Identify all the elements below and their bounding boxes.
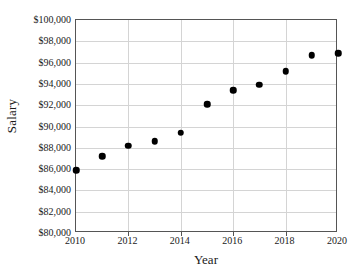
y-tick-label: $94,000 <box>3 77 71 88</box>
y-tick-label: $84,000 <box>3 184 71 195</box>
x-tick-label: 2020 <box>327 235 347 246</box>
gridline-vertical <box>181 20 182 231</box>
gridline-horizontal <box>76 169 336 170</box>
data-point <box>99 153 106 160</box>
plot-area <box>75 19 337 232</box>
x-tick-label: 2016 <box>222 235 242 246</box>
data-point <box>125 142 132 149</box>
data-point <box>335 50 342 57</box>
y-tick-label: $86,000 <box>3 163 71 174</box>
y-tick-label: $80,000 <box>3 227 71 238</box>
y-tick-label: $100,000 <box>3 14 71 25</box>
gridline-horizontal <box>76 148 336 149</box>
chart-page: Salary $80,000$82,000$84,000$86,000$88,0… <box>0 0 362 278</box>
y-tick-label: $82,000 <box>3 205 71 216</box>
x-tick-label: 2010 <box>65 235 85 246</box>
data-point <box>282 68 289 75</box>
x-tick-label: 2012 <box>117 235 137 246</box>
gridline-horizontal <box>76 190 336 191</box>
gridline-horizontal <box>76 212 336 213</box>
gridline-vertical <box>286 20 287 231</box>
y-tick-label: $92,000 <box>3 99 71 110</box>
x-tick-label: 2018 <box>275 235 295 246</box>
gridline-horizontal <box>76 63 336 64</box>
y-tick-label: $90,000 <box>3 120 71 131</box>
y-axis-tick-labels: $80,000$82,000$84,000$86,000$88,000$90,0… <box>0 19 71 232</box>
x-tick-label: 2014 <box>170 235 190 246</box>
y-tick-label: $96,000 <box>3 56 71 67</box>
gridline-vertical <box>233 20 234 231</box>
x-axis-tick-labels: 201020122014201620182020 <box>75 235 337 251</box>
data-point <box>256 82 263 89</box>
data-point <box>178 130 185 137</box>
data-point <box>204 101 211 108</box>
data-point <box>151 138 158 145</box>
x-axis-title: Year <box>75 252 337 268</box>
data-point <box>230 87 237 94</box>
y-tick-label: $98,000 <box>3 35 71 46</box>
x-axis-title-label: Year <box>194 252 218 267</box>
gridline-horizontal <box>76 127 336 128</box>
data-point <box>73 167 80 174</box>
gridline-vertical <box>128 20 129 231</box>
y-tick-label: $88,000 <box>3 141 71 152</box>
data-point <box>309 52 316 59</box>
gridline-horizontal <box>76 41 336 42</box>
gridline-horizontal <box>76 84 336 85</box>
